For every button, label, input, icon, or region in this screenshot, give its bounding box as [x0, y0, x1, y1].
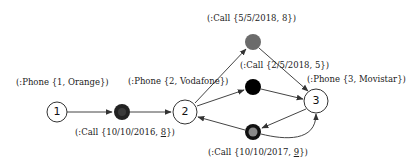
phone-node-2-number: 2 — [175, 105, 195, 119]
call-mid-label-suffix: }) — [320, 60, 329, 70]
call-a-label-prefix: (:Call {10/10/2016, — [75, 127, 161, 137]
edge-phone2-to-call-mid — [197, 90, 244, 106]
phone-node-3-number: 3 — [306, 94, 326, 108]
call-node-bottom[interactable] — [245, 124, 261, 140]
call-mid-label: (:Call {2/5/2018, 5}) — [240, 60, 329, 70]
edge-call-bottom-to-phone3 — [261, 114, 316, 138]
call-node-a[interactable] — [114, 104, 130, 120]
phone-node-1-number: 1 — [47, 105, 67, 119]
call-node-top[interactable] — [245, 34, 261, 50]
phone-1-label: (:Phone {1, Orange}) — [16, 77, 109, 87]
call-bottom-label-prefix: (:Call {10/10/2017, — [208, 147, 294, 157]
call-bottom-label-suffix: }) — [299, 147, 308, 157]
call-graph-diagram: 1 2 3 (:Phone {1, Orange}) (:Phone {2, V… — [0, 0, 409, 164]
call-mid-label-prefix: (:Call {2/5/2018, — [240, 60, 315, 70]
phone-3-label: (:Phone {3, Movistar}) — [307, 74, 406, 84]
edge-call-bottom-to-phone2 — [198, 117, 245, 130]
phone-2-label: (:Phone {2, Vodafone}) — [128, 76, 228, 86]
call-top-label-suffix: }) — [287, 13, 296, 23]
call-a-label: (:Call {10/10/2016, 8}) — [75, 127, 175, 137]
call-bottom-label: (:Call {10/10/2017, 9}) — [208, 147, 308, 157]
call-a-label-suffix: }) — [166, 127, 175, 137]
call-top-label: (:Call {5/5/2018, 8}) — [207, 13, 296, 23]
edge-call-mid-to-phone3 — [261, 89, 303, 99]
edge-phone3-to-call-bottom — [262, 109, 306, 128]
call-top-label-prefix: (:Call {5/5/2018, — [207, 13, 282, 23]
call-node-mid[interactable] — [245, 79, 261, 95]
